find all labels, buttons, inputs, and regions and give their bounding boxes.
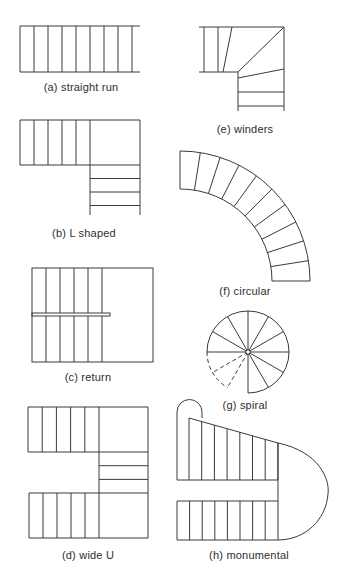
tread-line [228,352,249,388]
tread-line [248,332,284,353]
caption-monumental: (h) monumental [209,549,289,561]
panel-a-straight-run [20,26,140,72]
stair-outline [32,268,153,362]
panel-b-l-shaped [20,120,140,215]
panel-h-monumental [177,400,328,541]
caption-wide-u: (d) wide U [62,549,114,561]
landing-curve [278,443,328,540]
panel-f-circular [180,151,310,281]
tread-line [212,352,248,373]
panel-e-winders [199,27,284,111]
caption-spiral: (g) spiral [223,399,268,411]
tread-line [271,261,309,267]
caption-l-shaped: (b) L shaped [52,227,116,239]
caption-straight-run: (a) straight run [44,81,119,93]
tread-line [254,205,285,227]
tread-line [245,189,272,216]
panel-c-return [32,268,153,362]
tread-line [194,153,200,191]
tread-line [248,316,269,352]
caption-winders: (e) winders [217,123,274,135]
stair-outline [28,407,148,538]
winder-tread-line [238,69,284,78]
winder-tread-line [238,27,284,72]
handrail [32,313,110,316]
tread-line [208,157,220,193]
tread-line [262,222,296,239]
winder-tread-line [223,27,232,72]
tread-line [222,165,239,199]
caption-circular: (f) circular [219,285,270,297]
stair-edge [20,120,140,215]
tread-line [267,241,303,253]
tread-line [234,176,256,207]
tread-line [248,352,269,388]
panel-d-wide-u [28,407,148,538]
tread-line [248,352,284,373]
panel-g-spiral [207,311,289,393]
center-column [246,350,250,354]
caption-return: (c) return [65,371,112,383]
tread-line [228,316,249,352]
tread-line [212,332,248,353]
stair-edge [189,418,278,443]
